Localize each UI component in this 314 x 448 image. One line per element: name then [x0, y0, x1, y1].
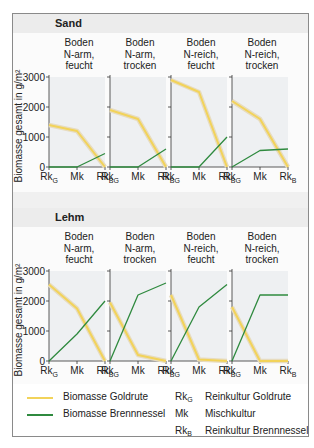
x-tick-label: Mk — [192, 171, 206, 182]
x-tick-label: RkB — [280, 365, 297, 378]
x-tick-label: RkG — [40, 365, 58, 378]
legend-goldrute-swatch — [27, 397, 53, 399]
panel-title: Boden — [187, 231, 216, 242]
plot-area — [232, 271, 288, 361]
panel-title: N-arm, — [125, 243, 156, 254]
panel-title: Boden — [65, 37, 94, 48]
chart-frame: Sand Lehm Biomasse gesamt in g/m²0100020… — [12, 13, 309, 437]
x-tick-label: Mk — [131, 365, 145, 376]
panel-title: feucht — [65, 254, 92, 265]
y-tick-label: 2000 — [23, 296, 46, 307]
x-tick-label: Mk — [192, 365, 206, 376]
legend-abbr-rkg: RkG — [175, 391, 193, 403]
legend-abbr-mk-text: Mischkultur — [205, 408, 256, 419]
y-tick-label: 1000 — [23, 132, 46, 143]
panel-title: feucht — [65, 60, 92, 71]
legend: Biomasse Goldrute Biomasse Brennnessel R… — [13, 384, 308, 436]
y-axis-label: Biomasse gesamt in g/m² — [13, 69, 24, 182]
x-tick-label: RkG — [162, 171, 180, 184]
legend-brennnessel-label: Biomasse Brennnessel — [63, 408, 165, 419]
panel-title: Boden — [248, 37, 277, 48]
legend-abbr-rkg-text: Reinkultur Goldrute — [205, 391, 291, 402]
panel-title: N-reich, — [244, 49, 279, 60]
panel-title: Boden — [126, 231, 155, 242]
x-tick-label: RkG — [40, 171, 58, 184]
chart-area: Biomasse gesamt in g/m²0100020003000Bode… — [13, 14, 310, 384]
panel-title: trocken — [124, 254, 157, 265]
x-tick-label: Mk — [253, 365, 267, 376]
panel-title: feucht — [187, 60, 214, 71]
panel-title: N-reich, — [183, 243, 218, 254]
x-tick-label: RkG — [162, 365, 180, 378]
x-tick-label: RkG — [101, 171, 119, 184]
y-tick-label: 1000 — [23, 326, 46, 337]
panel-title: trocken — [124, 60, 157, 71]
panel-title: Boden — [248, 231, 277, 242]
panel-title: N-arm, — [64, 49, 95, 60]
y-tick-label: 3000 — [23, 72, 46, 83]
panel-title: N-arm, — [64, 243, 95, 254]
panel-title: N-reich, — [244, 243, 279, 254]
legend-goldrute-label: Biomasse Goldrute — [63, 391, 148, 402]
y-tick-label: 2000 — [23, 102, 46, 113]
x-tick-label: RkG — [223, 171, 241, 184]
panel-title: Boden — [126, 37, 155, 48]
legend-abbr-mk: Mk — [175, 408, 188, 419]
panel-title: feucht — [187, 254, 214, 265]
panel-title: N-arm, — [125, 49, 156, 60]
x-tick-label: Mk — [70, 365, 84, 376]
panel-title: trocken — [246, 60, 279, 71]
panel-title: Boden — [187, 37, 216, 48]
x-tick-label: RkB — [280, 171, 297, 184]
x-tick-label: Mk — [253, 171, 267, 182]
x-tick-label: Mk — [131, 171, 145, 182]
legend-abbr-rkb: RkB — [175, 425, 192, 437]
panel-title: N-reich, — [183, 49, 218, 60]
x-tick-label: RkG — [223, 365, 241, 378]
panel-title: Boden — [65, 231, 94, 242]
legend-brennnessel-swatch — [27, 414, 53, 416]
x-tick-label: RkG — [101, 365, 119, 378]
panel-title: trocken — [246, 254, 279, 265]
x-tick-label: Mk — [70, 171, 84, 182]
y-tick-label: 3000 — [23, 266, 46, 277]
y-axis-label: Biomasse gesamt in g/m² — [13, 263, 24, 376]
legend-abbr-rkb-text: Reinkultur Brennnessel — [205, 425, 308, 436]
